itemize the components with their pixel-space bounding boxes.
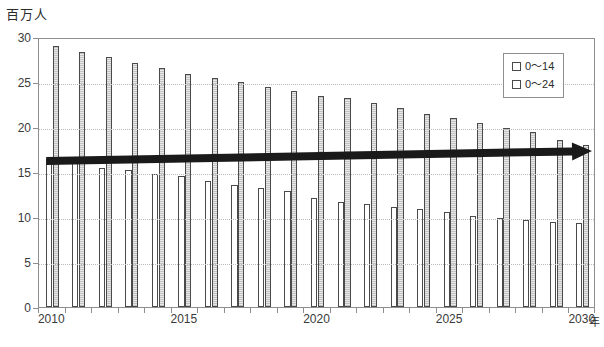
y-tick-label: 30: [18, 31, 31, 45]
bar: [284, 191, 290, 307]
bar: [152, 174, 158, 307]
y-tick-label: 5: [24, 256, 31, 270]
y-tick-label: 20: [18, 121, 31, 135]
y-axis: 051015202530: [0, 0, 38, 347]
bar: [125, 170, 131, 307]
bar: [72, 162, 78, 307]
x-tick-label: 2010: [38, 312, 65, 326]
bar: [450, 118, 456, 307]
bar: [178, 176, 184, 307]
bar: [397, 108, 403, 307]
legend-swatch-icon: [512, 80, 521, 89]
bar: [311, 198, 317, 307]
bar: [231, 185, 237, 307]
gridline: [39, 129, 594, 130]
bar: [258, 188, 264, 307]
bar: [132, 63, 138, 307]
bar: [557, 140, 563, 307]
bar: [391, 207, 397, 307]
bar: [583, 145, 589, 307]
bar: [470, 216, 476, 307]
bar: [205, 181, 211, 307]
bar: [53, 46, 59, 307]
x-axis-labels: 年 20102015202020252030: [0, 312, 604, 332]
gridline: [39, 219, 594, 220]
chart-root: 百万人 051015202530 年 20102015202020252030 …: [0, 0, 604, 347]
bar: [477, 123, 483, 307]
bar: [106, 57, 112, 307]
bar: [79, 52, 85, 307]
legend-swatch-icon: [512, 62, 521, 71]
y-tick-label: 25: [18, 76, 31, 90]
gridline: [39, 174, 594, 175]
bar: [503, 128, 509, 307]
bar: [46, 159, 52, 308]
bar: [497, 218, 503, 307]
legend-item: 0〜14: [512, 59, 554, 74]
legend-label: 0〜24: [525, 77, 554, 92]
bar: [159, 68, 165, 307]
legend-item: 0〜24: [512, 77, 554, 92]
bar: [99, 168, 105, 307]
gridline: [39, 264, 594, 265]
x-tick-label: 2015: [171, 312, 198, 326]
bar: [185, 74, 191, 307]
bar: [371, 103, 377, 307]
bar: [291, 91, 297, 307]
bar: [576, 223, 582, 307]
x-tick-label: 2030: [568, 312, 595, 326]
bar: [444, 212, 450, 307]
y-tick-label: 15: [18, 166, 31, 180]
bar: [265, 87, 271, 308]
bar: [212, 78, 218, 308]
legend-label: 0〜14: [525, 59, 554, 74]
y-tick-label: 10: [18, 211, 31, 225]
bar: [417, 209, 423, 307]
x-tick-label: 2020: [303, 312, 330, 326]
bar: [318, 96, 324, 308]
bar: [424, 114, 430, 308]
chart-legend: 0〜140〜24: [503, 53, 564, 98]
bar: [338, 202, 344, 307]
x-tick-label: 2025: [436, 312, 463, 326]
bar: [238, 82, 244, 307]
